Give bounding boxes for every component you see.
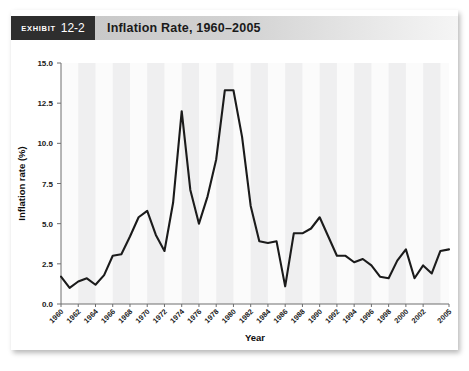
exhibit-tag-number: 12-2 (61, 21, 85, 35)
y-tick-label: 0.0 (42, 300, 54, 309)
exhibit-tag-badge: Exhibit 12-2 (11, 16, 95, 40)
x-tick-label: 1990 (306, 307, 324, 325)
background-band (251, 63, 268, 304)
x-tick-label: 1992 (323, 307, 341, 325)
x-tick-label: 1996 (358, 307, 376, 325)
x-tick-label: 1994 (341, 306, 360, 325)
y-tick-label: 7.5 (42, 180, 54, 189)
background-bands (61, 63, 449, 304)
x-tick-label: 1984 (254, 306, 273, 325)
y-axis-ticks: 0.02.55.07.510.012.515.0 (37, 59, 61, 309)
background-band (320, 63, 337, 304)
background-band (147, 63, 164, 304)
y-tick-label: 5.0 (42, 220, 54, 229)
x-tick-label: 1970 (134, 307, 152, 325)
y-tick-label: 10.0 (37, 139, 53, 148)
x-tick-label: 1974 (168, 306, 187, 325)
exhibit-header: Exhibit 12-2 Inflation Rate, 1960–2005 (11, 16, 458, 40)
y-axis-title: Inflation rate (%) (16, 146, 27, 220)
x-tick-label: 1964 (82, 306, 101, 325)
x-tick-label: 1960 (47, 307, 65, 325)
x-tick-label: 2005 (435, 307, 453, 325)
background-band (389, 63, 406, 304)
x-axis-ticks: 1960196219641966196819701972197419761978… (47, 304, 453, 325)
y-tick-label: 12.5 (37, 99, 53, 108)
x-tick-label: 1962 (65, 307, 83, 325)
x-tick-label: 2002 (410, 307, 428, 325)
x-tick-label: 1972 (151, 307, 169, 325)
x-tick-label: 1982 (237, 307, 255, 325)
y-tick-label: 2.5 (42, 260, 54, 269)
exhibit-title: Inflation Rate, 1960–2005 (107, 21, 261, 35)
y-tick-label: 15.0 (37, 59, 53, 68)
background-band (78, 63, 95, 304)
x-tick-label: 1976 (185, 307, 203, 325)
exhibit-card: Exhibit 12-2 Inflation Rate, 1960–2005 0… (11, 10, 458, 350)
x-tick-label: 1988 (289, 307, 307, 325)
x-tick-label: 1978 (203, 307, 221, 325)
x-tick-label: 1968 (116, 307, 134, 325)
background-band (113, 63, 130, 304)
x-tick-label: 2000 (392, 307, 410, 325)
x-axis-title: Year (245, 332, 265, 343)
x-tick-label: 1966 (99, 307, 117, 325)
x-tick-label: 1998 (375, 307, 393, 325)
inflation-line-chart: 0.02.55.07.510.012.515.0 196019621964196… (11, 42, 458, 347)
chart-plot-area: 0.02.55.07.510.012.515.0 196019621964196… (11, 42, 458, 347)
exhibit-title-bar: Inflation Rate, 1960–2005 (95, 16, 458, 40)
x-tick-label: 1980 (220, 307, 238, 325)
x-tick-label: 1986 (272, 307, 290, 325)
background-band (354, 63, 371, 304)
exhibit-tag-word: Exhibit (21, 24, 56, 33)
background-band (216, 63, 233, 304)
